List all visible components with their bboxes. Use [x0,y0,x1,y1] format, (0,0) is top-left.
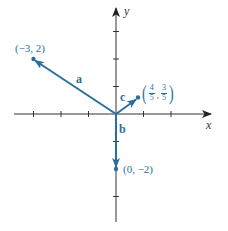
open-paren: ( [142,83,147,103]
close-paren: ) [169,83,174,103]
vector-diagram: y x a b c (−3, 2) (0, −2) ( 4 5 , 3 5 ) [0,0,228,231]
point-a-dot [31,57,35,61]
fraction-x: 4 5 [149,84,155,102]
x-axis-label: x [206,119,211,131]
vector-c-label: c [120,91,125,103]
vector-a-label: a [76,73,82,85]
point-b-dot [114,167,118,171]
fraction-y-denominator: 5 [162,94,166,103]
fraction-y: 3 5 [161,84,167,102]
vector-b-label: b [119,123,126,135]
vector-a [35,61,116,115]
point-c-dot [136,95,140,99]
diagram-canvas [0,0,228,231]
fraction-x-denominator: 5 [150,94,154,103]
point-b-label: (0, −2) [123,164,153,175]
point-c-label: ( 4 5 , 3 5 ) [141,83,175,103]
point-a-label: (−3, 2) [15,43,45,54]
y-axis-label: y [124,5,129,17]
separator: , [157,91,159,103]
vector-c [116,100,136,115]
